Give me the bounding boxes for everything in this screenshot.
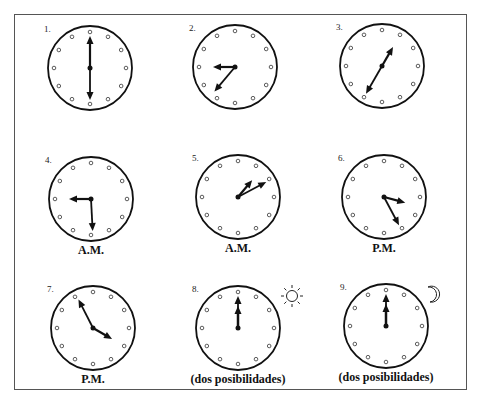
moon-icon [0,0,479,403]
